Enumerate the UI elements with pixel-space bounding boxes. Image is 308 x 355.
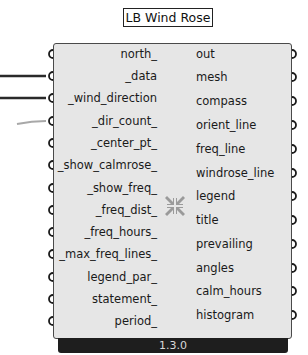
input-legend-par[interactable]: legend_par_ [87,270,157,284]
output-orient-line[interactable]: orient_line [196,118,256,132]
input-center-pt[interactable]: _center_pt_ [91,136,157,150]
input-show-freq[interactable]: _show_freq_ [87,181,157,195]
component-title: LB Wind Rose [123,8,213,27]
output-grip-out[interactable] [292,50,296,58]
output-grip-prevailing[interactable] [292,240,296,248]
input-freq-dist[interactable]: _freq_dist_ [96,203,157,217]
output-title[interactable]: title [196,213,218,227]
output-angles[interactable]: angles [196,261,234,275]
input-statement[interactable]: statement_ [92,292,157,306]
input-north[interactable]: north_ [120,47,157,61]
input-max-freq-lines[interactable]: _max_freq_lines_ [59,247,157,261]
grasshopper-canvas: LB Wind Rose [0,0,308,355]
output-windrose-line[interactable]: windrose_line [196,166,274,180]
output-freq-line[interactable]: freq_line [196,142,245,156]
input-data[interactable]: _data [125,69,157,83]
output-prevailing[interactable]: prevailing [196,237,253,251]
output-mesh[interactable]: mesh [196,70,228,84]
output-grip-calm-hours[interactable] [292,287,296,295]
output-histogram[interactable]: histogram [196,308,254,322]
version-footer: 1.3.0 [58,338,288,353]
output-calm-hours[interactable]: calm_hours [196,284,262,298]
input-dir-count[interactable]: _dir_count_ [92,114,157,128]
output-grip-title[interactable] [292,216,296,224]
output-grip-mesh[interactable] [292,73,296,81]
input-period[interactable]: period_ [115,314,157,328]
input-freq-hours[interactable]: _freq_hours_ [85,225,157,239]
output-grip-angles[interactable] [292,264,296,272]
output-legend[interactable]: legend [196,189,235,203]
output-grip-legend[interactable] [292,192,296,200]
output-out[interactable]: out [196,47,215,61]
compress-arrows-icon [164,195,186,217]
output-grip-compass[interactable] [292,97,296,105]
output-grip-windrose-line[interactable] [292,169,296,177]
input-show-calmrose[interactable]: _show_calmrose_ [58,158,157,172]
input-wind-direction[interactable]: _wind_direction [68,91,157,105]
output-grip-histogram[interactable] [292,311,296,319]
output-grip-orient-line[interactable] [292,121,296,129]
wire-dir-count[interactable] [17,121,46,124]
output-grip-freq-line[interactable] [292,145,296,153]
output-compass[interactable]: compass [196,94,247,108]
